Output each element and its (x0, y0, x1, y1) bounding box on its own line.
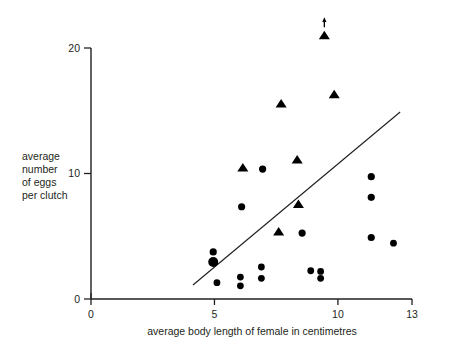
x-tick-label-0: 0 (88, 308, 94, 320)
y-axis-title: average number of eggs per clutch (22, 150, 68, 201)
data-point-circle-14 (368, 194, 375, 201)
data-point-triangle-1 (276, 99, 287, 108)
data-point-triangle-0 (237, 163, 248, 172)
data-point-circle-13 (368, 173, 375, 180)
data-point-circle-7 (258, 264, 265, 271)
x-tick-label-5: 5 (212, 308, 218, 320)
chart-canvas: 01020 051013 average body length of fema… (0, 0, 450, 355)
off-scale-arrow-head (322, 17, 326, 22)
data-point-circle-8 (258, 275, 265, 282)
data-point-circle-6 (259, 166, 266, 173)
y-tick-marks (84, 48, 91, 299)
y-axis-title-line-2: number (22, 163, 58, 175)
data-point-circle-9 (299, 230, 306, 237)
data-point-triangle-5 (319, 31, 330, 40)
data-point-circle-5 (237, 282, 244, 289)
y-tick-label-0: 0 (74, 293, 80, 305)
y-axis-title-line-3: of eggs (22, 176, 56, 188)
data-point-triangle-6 (329, 90, 340, 99)
data-point-triangle-3 (292, 155, 303, 164)
data-point-circle-1 (208, 257, 218, 267)
series-circles (208, 166, 397, 290)
x-axis-title: average body length of female in centime… (147, 325, 357, 337)
y-tick-label-10: 10 (68, 167, 80, 179)
y-axis-title-line-1: average (22, 150, 60, 162)
data-point-circle-12 (317, 275, 324, 282)
y-tick-labels: 01020 (68, 42, 80, 305)
data-point-circle-2 (214, 279, 221, 286)
data-point-circle-4 (237, 274, 244, 281)
scatter-chart: 01020 051013 average body length of fema… (0, 0, 450, 355)
data-point-circle-15 (368, 234, 375, 241)
axes-group (91, 48, 412, 299)
data-point-triangle-2 (273, 227, 284, 236)
x-tick-label-13: 13 (406, 308, 418, 320)
x-tick-label-10: 10 (332, 308, 344, 320)
data-point-circle-0 (210, 248, 217, 255)
data-point-circle-10 (307, 267, 314, 274)
x-tick-labels: 051013 (88, 308, 418, 320)
y-tick-label-20: 20 (68, 42, 80, 54)
data-point-circle-3 (238, 203, 245, 210)
data-point-circle-11 (317, 268, 324, 275)
annotations-layer (322, 17, 326, 27)
data-point-circle-16 (390, 240, 397, 247)
y-axis-title-line-4: per clutch (22, 189, 68, 201)
